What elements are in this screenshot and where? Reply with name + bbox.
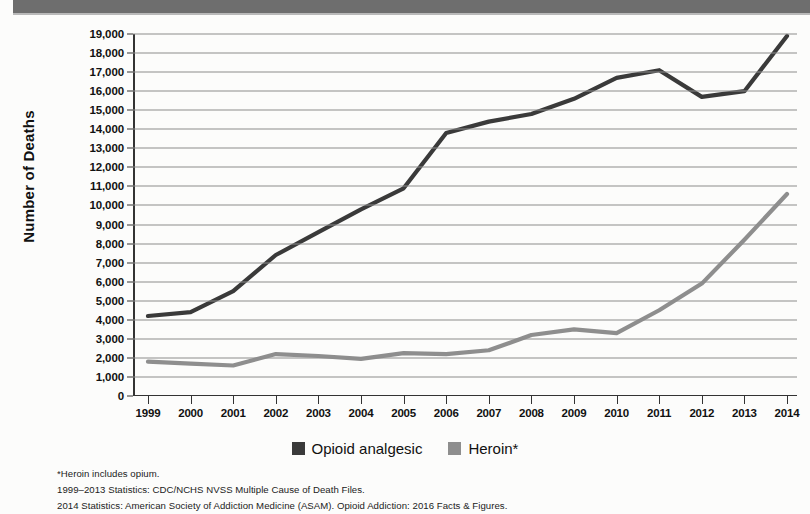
y-tick-mark <box>127 72 133 73</box>
y-tick-label: 3,000 <box>96 333 124 345</box>
y-axis-title: Number of Deaths <box>20 87 37 267</box>
x-tick-mark <box>233 396 234 404</box>
gridline <box>133 34 797 35</box>
x-tick-label: 2007 <box>476 407 501 419</box>
y-tick-label: 13,000 <box>89 142 124 154</box>
gridline <box>133 91 797 92</box>
x-tick-mark <box>531 396 532 404</box>
y-tick-label: 5,000 <box>96 295 124 307</box>
x-tick-mark <box>361 396 362 404</box>
y-tick-label: 8,000 <box>96 238 124 250</box>
x-tick-label: 2014 <box>775 407 800 419</box>
y-tick-mark <box>127 300 133 301</box>
plot-area: 19,00018,00017,00016,00015,00014,00013,0… <box>133 34 797 396</box>
footnote-block: *Heroin includes opium.1999–2013 Statist… <box>57 466 797 514</box>
y-tick-label: 16,000 <box>89 85 124 97</box>
x-tick-label: 2010 <box>604 407 629 419</box>
gridline <box>133 281 797 282</box>
y-tick-mark <box>127 34 133 35</box>
gridline <box>133 338 797 339</box>
x-tick-label: 2000 <box>178 407 203 419</box>
x-tick-mark <box>617 396 618 404</box>
legend-item[interactable]: Opioid analgesic <box>292 440 423 457</box>
x-tick-mark <box>574 396 575 404</box>
y-tick-label: 17,000 <box>89 66 124 78</box>
y-tick-mark <box>127 262 133 263</box>
x-tick-mark <box>318 396 319 404</box>
y-tick-mark <box>127 376 133 377</box>
y-tick-mark <box>127 205 133 206</box>
legend-label: Heroin* <box>468 440 518 457</box>
x-tick-mark <box>489 396 490 404</box>
gridline <box>133 110 797 111</box>
x-tick-mark <box>276 396 277 404</box>
x-tick-mark <box>446 396 447 404</box>
y-tick-mark <box>127 186 133 187</box>
y-tick-mark <box>127 53 133 54</box>
y-tick-mark <box>127 129 133 130</box>
x-tick-label: 2013 <box>732 407 757 419</box>
gridline <box>133 148 797 149</box>
chart-legend: Opioid analgesicHeroin* <box>0 440 810 457</box>
y-tick-label: 12,000 <box>89 161 124 173</box>
footnote-line: *Heroin includes opium. <box>57 466 797 482</box>
chart-container: Number of Deaths 19,00018,00017,00016,00… <box>0 18 810 418</box>
y-tick-label: 2,000 <box>96 352 124 364</box>
y-tick-label: 18,000 <box>89 47 124 59</box>
figure-page: Number of Deaths 19,00018,00017,00016,00… <box>0 0 810 514</box>
gridline <box>133 53 797 54</box>
y-tick-label: 1,000 <box>96 371 124 383</box>
y-tick-label: 19,000 <box>89 28 124 40</box>
legend-label: Opioid analgesic <box>312 440 423 457</box>
y-tick-label: 6,000 <box>96 276 124 288</box>
y-tick-label: 9,000 <box>96 219 124 231</box>
gridline <box>133 167 797 168</box>
y-tick-mark <box>127 357 133 358</box>
y-tick-mark <box>127 338 133 339</box>
legend-item[interactable]: Heroin* <box>448 440 518 457</box>
y-tick-label: 0 <box>118 390 124 402</box>
x-tick-label: 2012 <box>689 407 714 419</box>
y-tick-label: 7,000 <box>96 257 124 269</box>
x-tick-mark <box>787 396 788 404</box>
x-tick-label: 2009 <box>562 407 587 419</box>
y-tick-mark <box>127 148 133 149</box>
gridline <box>133 243 797 244</box>
gridline <box>133 186 797 187</box>
gridline <box>133 357 797 358</box>
gridline <box>133 205 797 206</box>
series-line <box>148 36 787 316</box>
gridline <box>133 224 797 225</box>
x-tick-label: 2002 <box>263 407 288 419</box>
footnote-line: 1999–2013 Statistics: CDC/NCHS NVSS Mult… <box>57 482 797 498</box>
footnote-line: 2014 Statistics: American Society of Add… <box>57 498 797 514</box>
y-tick-mark <box>127 110 133 111</box>
x-tick-label: 2006 <box>434 407 459 419</box>
y-tick-mark <box>127 243 133 244</box>
y-tick-mark <box>127 396 133 397</box>
y-tick-mark <box>127 91 133 92</box>
gridline <box>133 262 797 263</box>
page-header-band <box>13 0 810 13</box>
gridline <box>133 129 797 130</box>
gridline <box>133 300 797 301</box>
x-tick-mark <box>702 396 703 404</box>
x-tick-label: 2008 <box>519 407 544 419</box>
series-lines <box>133 34 797 396</box>
y-tick-label: 11,000 <box>90 180 124 192</box>
x-tick-mark <box>148 396 149 404</box>
legend-swatch-icon <box>292 442 305 455</box>
x-tick-mark <box>659 396 660 404</box>
x-tick-label: 2004 <box>349 407 374 419</box>
legend-swatch-icon <box>448 442 461 455</box>
x-tick-label: 2001 <box>221 407 246 419</box>
y-tick-label: 15,000 <box>89 104 124 116</box>
x-tick-label: 2003 <box>306 407 331 419</box>
y-tick-label: 14,000 <box>89 123 124 135</box>
x-tick-label: 1999 <box>136 407 161 419</box>
y-tick-label: 4,000 <box>96 314 124 326</box>
gridline <box>133 319 797 320</box>
y-tick-mark <box>127 281 133 282</box>
y-tick-label: 10,000 <box>89 199 124 211</box>
y-tick-mark <box>127 167 133 168</box>
